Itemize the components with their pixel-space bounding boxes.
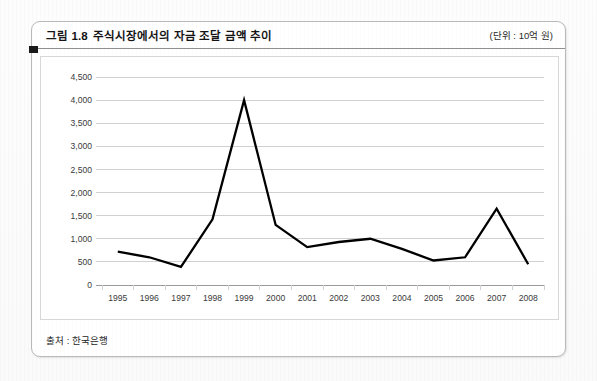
figure-page: 그림 1.8주식시장에서의 자금 조달 금액 추이 (단위 : 10억 원) 0…: [0, 0, 597, 381]
svg-text:1999: 1999: [235, 293, 254, 303]
chart-plot-panel: 05001,0001,5002,0002,5003,0003,5004,0004…: [40, 56, 559, 320]
svg-text:2003: 2003: [361, 293, 380, 303]
figure-title-text: 주식시장에서의 자금 조달 금액 추이: [93, 30, 273, 42]
svg-text:2001: 2001: [298, 293, 317, 303]
svg-text:1995: 1995: [108, 293, 127, 303]
svg-text:500: 500: [78, 257, 93, 267]
svg-text:4,500: 4,500: [70, 72, 92, 82]
svg-text:1,000: 1,000: [70, 234, 92, 244]
figure-header: 그림 1.8주식시장에서의 자금 조달 금액 추이 (단위 : 10억 원): [32, 22, 565, 49]
svg-text:1996: 1996: [140, 293, 159, 303]
svg-text:2,000: 2,000: [70, 188, 92, 198]
svg-text:1,500: 1,500: [70, 211, 92, 221]
svg-text:3,000: 3,000: [70, 141, 92, 151]
figure-card: 그림 1.8주식시장에서의 자금 조달 금액 추이 (단위 : 10억 원) 0…: [31, 21, 566, 357]
figure-unit-note: (단위 : 10억 원): [490, 28, 553, 42]
source-note: 출처 : 한국은행: [46, 333, 108, 347]
svg-text:2,500: 2,500: [70, 165, 92, 175]
svg-text:4,000: 4,000: [70, 95, 92, 105]
svg-text:0: 0: [87, 280, 92, 290]
svg-text:2006: 2006: [456, 293, 475, 303]
line-chart: 05001,0001,5002,0002,5003,0003,5004,0004…: [41, 57, 558, 319]
svg-text:2007: 2007: [487, 293, 506, 303]
svg-text:2004: 2004: [392, 293, 411, 303]
svg-text:3,500: 3,500: [70, 118, 92, 128]
figure-title: 그림 1.8주식시장에서의 자금 조달 금액 추이: [46, 27, 272, 43]
svg-text:1997: 1997: [171, 293, 190, 303]
figure-number: 그림 1.8: [46, 30, 88, 42]
svg-text:2008: 2008: [519, 293, 538, 303]
svg-text:1998: 1998: [203, 293, 222, 303]
svg-text:2002: 2002: [329, 293, 348, 303]
header-corner-marker: [29, 46, 38, 53]
svg-text:2005: 2005: [424, 293, 443, 303]
svg-text:2000: 2000: [266, 293, 285, 303]
